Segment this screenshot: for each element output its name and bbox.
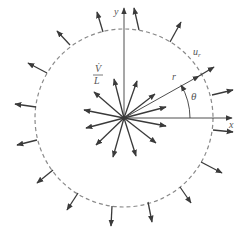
x-axis-label: x	[228, 119, 234, 130]
source-strength-denominator: L	[93, 75, 100, 86]
source-flow-diagram: y x ur r θ V̇ L	[0, 0, 244, 235]
radial-velocity-label: ur	[193, 46, 201, 59]
radius-vector	[124, 67, 214, 118]
y-axis-label: y	[113, 6, 119, 17]
source-strength-numerator: V̇	[95, 63, 103, 74]
radius-label: r	[172, 71, 176, 82]
angle-arc	[181, 85, 190, 118]
angle-label: θ	[191, 90, 197, 102]
axes	[124, 8, 232, 118]
radial-velocity-arrow	[199, 67, 214, 76]
